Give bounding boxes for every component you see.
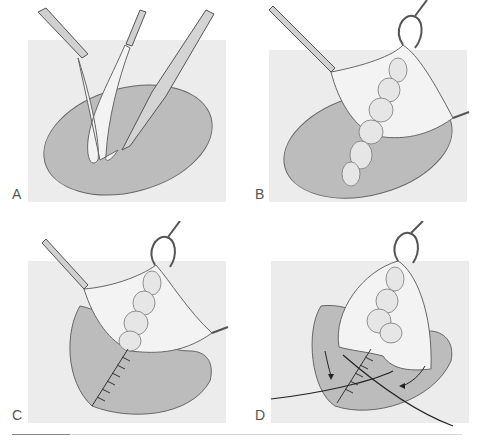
bottom-rule [12, 434, 462, 435]
panel-b: B [243, 0, 486, 215]
illustration-incision [0, 0, 243, 215]
panel-a: A [0, 0, 243, 215]
illustration-flap-closure [243, 221, 486, 436]
panel-d: D [243, 221, 486, 436]
panel-label: C [12, 407, 22, 423]
panel-label: B [255, 186, 264, 202]
illustration-base-sutured [0, 221, 243, 436]
panel-label: A [12, 186, 21, 202]
panel-label: D [255, 407, 265, 423]
panel-c: C [0, 221, 243, 436]
illustration-flap-retraction [243, 0, 486, 215]
